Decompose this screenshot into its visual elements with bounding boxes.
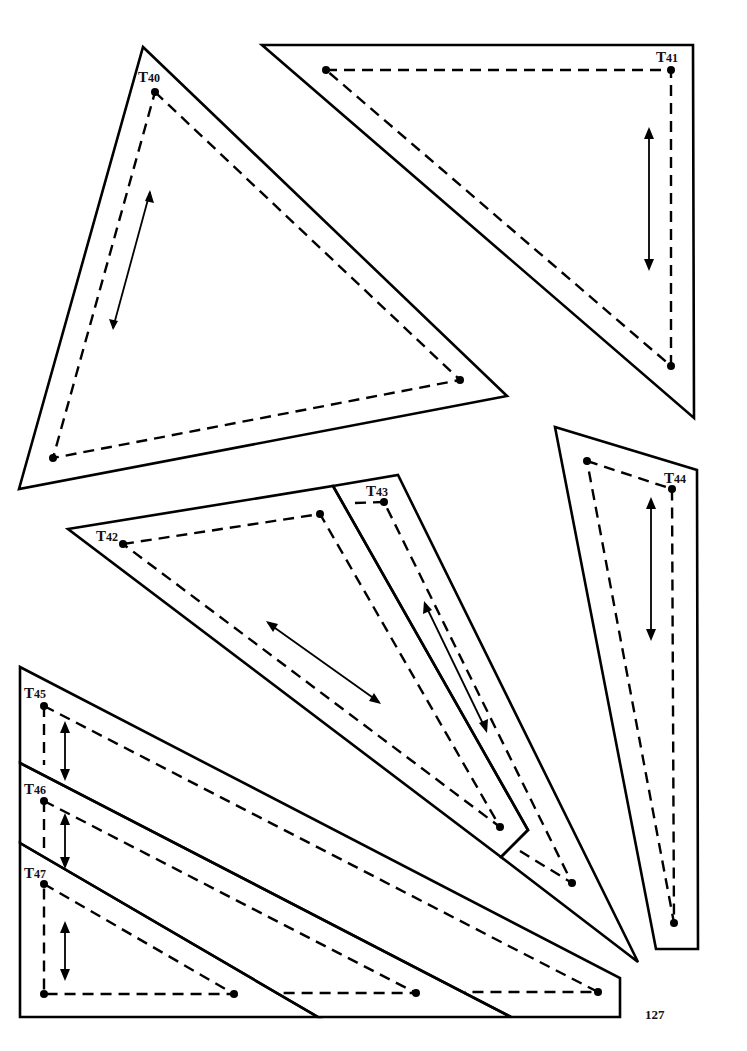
seam-line xyxy=(326,70,671,366)
corner-dot xyxy=(412,989,420,997)
corner-dot xyxy=(40,990,48,998)
grain-arrow-icon xyxy=(60,813,70,869)
grain-arrow-icon xyxy=(109,190,154,330)
corner-dot xyxy=(40,702,48,710)
template-label: T41 xyxy=(656,49,678,65)
seam-line xyxy=(44,884,234,994)
template-label: T47 xyxy=(24,865,46,881)
corner-dot xyxy=(230,990,238,998)
template-t44[interactable]: T44 xyxy=(555,427,698,949)
template-t46[interactable]: T46 xyxy=(20,763,511,1017)
cut-line xyxy=(19,47,507,489)
template-label: T44 xyxy=(664,470,686,486)
template-t47[interactable]: T47 xyxy=(20,843,318,1017)
template-label: T40 xyxy=(138,69,160,85)
template-label: T42 xyxy=(96,528,118,544)
cut-line xyxy=(333,475,638,962)
template-t41[interactable]: T41 xyxy=(262,45,694,418)
seam-line xyxy=(44,706,598,992)
template-label: T43 xyxy=(366,483,388,499)
corner-dot xyxy=(667,66,675,74)
cut-line xyxy=(262,45,694,418)
grain-arrow-icon xyxy=(644,127,654,271)
grain-arrow-icon xyxy=(423,601,488,733)
corner-dot xyxy=(594,988,602,996)
cut-line xyxy=(68,486,528,857)
corner-dot xyxy=(40,880,48,888)
corner-dot xyxy=(316,510,324,518)
corner-dot xyxy=(496,823,504,831)
corner-dot xyxy=(568,879,576,887)
grain-arrow-icon xyxy=(60,921,70,981)
template-sheet: T40 T41 T42 xyxy=(0,0,747,1051)
seam-line xyxy=(355,502,572,883)
corner-dot xyxy=(119,540,127,548)
corner-dot xyxy=(583,457,591,465)
seam-line xyxy=(123,514,500,827)
corner-dot xyxy=(49,454,57,462)
template-label: T45 xyxy=(24,685,46,701)
grain-arrow-icon xyxy=(60,721,70,781)
corner-dot xyxy=(670,919,678,927)
seam-line xyxy=(587,461,674,923)
cut-line xyxy=(20,763,511,1017)
corner-dot xyxy=(40,797,48,805)
grain-arrow-icon xyxy=(646,497,656,641)
template-t42[interactable]: T42 xyxy=(68,486,528,857)
corner-dot xyxy=(667,362,675,370)
corner-dot xyxy=(380,498,388,506)
template-label: T46 xyxy=(24,781,46,797)
template-t43[interactable]: T43 xyxy=(333,475,638,962)
corner-dot xyxy=(151,88,159,96)
cut-line xyxy=(555,427,698,949)
page-number: 127 xyxy=(645,1007,665,1022)
corner-dot xyxy=(322,66,330,74)
corner-dot xyxy=(456,376,464,384)
template-t40[interactable]: T40 xyxy=(19,47,507,489)
corner-dot xyxy=(668,485,676,493)
